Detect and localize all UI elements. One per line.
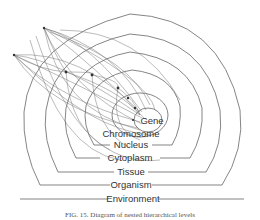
label-environment: Environment — [106, 193, 160, 204]
label-organism: Organism — [110, 179, 151, 190]
figure-caption: FIG. 15. Diagram of nested hierarchical … — [65, 211, 195, 219]
label-gene: Gene — [140, 115, 163, 126]
nested-levels-diagram: Gene Chromosome Nucleus Cytoplasm Tissue… — [0, 0, 260, 220]
label-nucleus: Nucleus — [114, 139, 149, 150]
label-tissue: Tissue — [117, 166, 145, 177]
label-cytoplasm: Cytoplasm — [108, 152, 153, 163]
interaction-web — [14, 28, 180, 161]
label-chromosome: Chromosome — [102, 128, 159, 139]
